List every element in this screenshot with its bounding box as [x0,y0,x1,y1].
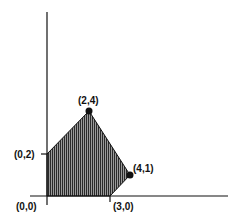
label-3-0: (3,0) [113,201,134,212]
label-0-2: (0,2) [14,149,35,160]
point-2-4-marker [86,108,93,115]
label-4-1: (4,1) [133,163,154,174]
label-2-4: (2,4) [78,95,99,106]
feasible-region [47,111,130,196]
label-origin: (0,0) [16,201,37,212]
diagram-canvas: (0,0) (0,2) (2,4) (4,1) (3,0) [0,0,242,224]
